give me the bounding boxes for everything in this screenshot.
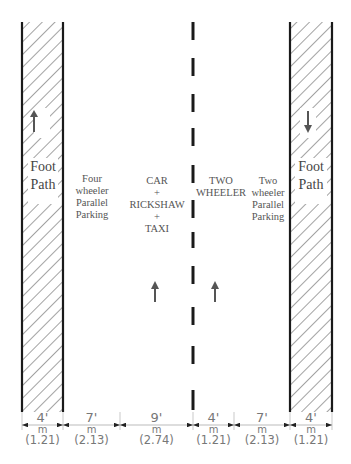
dimension-feet: 4' [22,411,63,425]
right-footpath [290,22,332,412]
dimension-two-wheeler-lane: 4' m (1.21) [193,411,234,446]
dimension-feet: 4' [193,411,234,425]
label-line: wheeler [64,185,120,197]
left-footpath-label: Foot Path [22,158,64,194]
label-line: Four [64,173,120,185]
label-line: wheeler [246,187,290,199]
dimension-feet: 7' [234,411,290,425]
label-line: Parking [246,211,290,223]
dimension-feet: 9' [120,411,193,425]
dimension-left-footpath: 4' m (1.21) [22,411,63,446]
label-line: Path [290,176,332,194]
two-wheeler-lane-label: TWO WHEELER [195,175,247,199]
label-line: Parallel [246,199,290,211]
dimension-meters: (1.21) [22,434,63,446]
label-line: Foot [290,158,332,176]
label-line: WHEELER [195,187,247,199]
label-line: Path [22,176,64,194]
right-footpath-label: Foot Path [290,158,332,194]
label-line: TWO [195,175,247,187]
dimension-feet: 4' [290,411,332,425]
label-line: + [121,187,193,199]
dimension-meters: (2.74) [120,434,193,446]
left-footpath [22,22,63,412]
dimension-meters: (1.21) [193,434,234,446]
dimension-meters: (1.21) [290,434,332,446]
dimension-two-wheeler-parking: 7' m (2.13) [234,411,290,446]
label-line: RICKSHAW [121,199,193,211]
dimension-feet: 7' [63,411,120,425]
label-line: Foot [22,158,64,176]
label-line: Two [246,175,290,187]
dimension-four-wheeler-parking: 7' m (2.13) [63,411,120,446]
two-wheeler-parking-label: Two wheeler Parallel Parking [246,175,290,223]
label-line: CAR [121,175,193,187]
dimension-meters: (2.13) [63,434,120,446]
label-line: TAXI [121,223,193,235]
dimension-right-footpath: 4' m (1.21) [290,411,332,446]
dimension-car-rickshaw-taxi: 9' m (2.74) [120,411,193,446]
four-wheeler-parking-label: Four wheeler Parallel Parking [64,173,120,221]
label-line: Parking [64,209,120,221]
label-line: + [121,211,193,223]
label-line: Parallel [64,197,120,209]
up-arrow-icon [211,281,219,302]
dimension-meters: (2.13) [234,434,290,446]
up-arrow-icon [151,281,159,302]
car-rickshaw-taxi-label: CAR + RICKSHAW + TAXI [121,175,193,235]
